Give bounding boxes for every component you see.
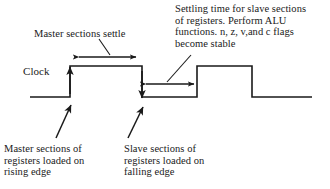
clock-signal-label: Clock [23,66,50,78]
slave-sections-loaded-caption: Slave sections of registers loaded on fa… [124,143,204,178]
master-sections-loaded-caption: Master sections of registers loaded on r… [4,143,84,178]
clock-waveform-trace [30,66,312,97]
slave-loaded-pointer-arrow [128,107,143,138]
settling-time-leader-line [167,55,191,82]
master-loaded-pointer-arrow [56,105,71,138]
timing-diagram-figure: Clock Master sections settle Settling ti… [0,0,330,189]
settling-time-annotation: Settling time for slave sections of regi… [175,3,306,49]
master-sections-settle-label: Master sections settle [34,28,126,40]
master-settle-leader-line [99,39,110,55]
